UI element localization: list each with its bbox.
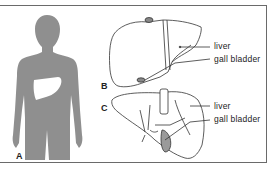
label-b-liver: liver	[214, 42, 231, 51]
panel-label-c: C	[101, 104, 108, 113]
panel-label-a: A	[16, 152, 23, 161]
liver-inferior-view	[112, 89, 210, 158]
liver-anterior-view	[109, 18, 210, 87]
label-b-gall-bladder: gall bladder	[214, 55, 260, 64]
panel-label-b: B	[101, 82, 108, 91]
label-c-liver: liver	[214, 102, 231, 111]
diagram-canvas	[0, 0, 277, 175]
body-silhouette	[13, 15, 83, 160]
label-c-gall-bladder: gall bladder	[214, 115, 260, 124]
